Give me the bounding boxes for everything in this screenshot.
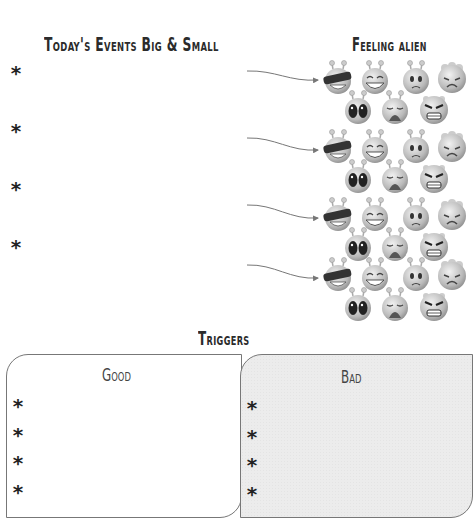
bad-title: Bad (341, 367, 361, 387)
good-bullet-1: * (11, 399, 25, 413)
triggers-title: Triggers (198, 327, 250, 349)
emoji-group-3 (323, 198, 466, 262)
good-bullet-2: * (11, 428, 25, 442)
bad-bullet-1: * (245, 401, 259, 415)
emoji-group-1 (323, 61, 466, 125)
bad-bullet-4: * (245, 487, 259, 501)
good-triggers-box: Good * * * * (6, 354, 242, 518)
good-title: Good (102, 365, 131, 385)
good-bullet-4: * (11, 485, 25, 499)
bad-triggers-box: Bad * * * * (240, 354, 473, 518)
bad-bullet-3: * (245, 458, 259, 472)
emoji-group-4 (323, 258, 466, 322)
emoji-group-2 (323, 130, 466, 194)
bad-bullet-2: * (245, 430, 259, 444)
good-bullet-3: * (11, 456, 25, 470)
